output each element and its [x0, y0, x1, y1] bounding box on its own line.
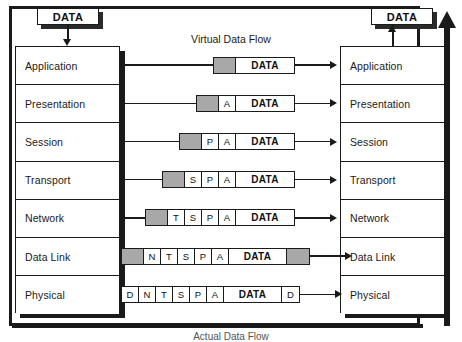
packet-cell-p: P	[202, 210, 219, 225]
packet-lead-line	[121, 103, 196, 105]
packet-row-transport: SPADATA	[121, 171, 337, 188]
layer-label: Network	[25, 212, 64, 224]
packet-cell-a: A	[219, 134, 236, 149]
packet-cell-data: DATA	[224, 287, 282, 302]
packet-cell-data: DATA	[236, 172, 294, 187]
packet-tail-line	[295, 103, 330, 105]
packet-cell-data: DATA	[236, 58, 294, 73]
packet-cell-n: N	[139, 287, 156, 302]
layer-label: Session	[350, 136, 388, 148]
packet-arrow-head-icon	[330, 61, 337, 69]
packet-cell-s: S	[185, 172, 202, 187]
destination-arrow-head-icon	[388, 25, 396, 32]
packet-tail-line	[295, 217, 330, 219]
layer-row-transport-left: Transport	[16, 162, 119, 200]
layer-label: Presentation	[25, 98, 85, 110]
packet-cell-shaded	[287, 249, 309, 264]
destination-data-capsule: DATA	[371, 8, 433, 25]
layer-label: Physical	[25, 289, 65, 301]
packet-lead-line	[121, 179, 162, 181]
packet-arrow-head-icon	[330, 214, 337, 222]
packet-cell-t: T	[168, 210, 185, 225]
layer-row-presentation-right: Presentation	[341, 85, 444, 123]
packet-cell-data: DATA	[236, 96, 294, 111]
packet-tail-line	[310, 255, 345, 257]
packet: DATA	[213, 57, 295, 74]
actual-data-flow-arrow-head-icon	[438, 11, 456, 28]
packet-row-presentation: ADATA	[121, 95, 337, 112]
packet-row-physical: DNTSPADATAD	[121, 286, 342, 303]
packet-cell-p: P	[202, 134, 219, 149]
packet-arrow-head-icon	[330, 99, 337, 107]
packet-cell-shaded	[163, 172, 185, 187]
packet-cell-a: A	[219, 172, 236, 187]
packet: DNTSPADATAD	[121, 286, 300, 303]
diagram-outer-frame-shadow	[12, 324, 423, 328]
packet-tail-line	[300, 294, 335, 296]
packet-cell-d: D	[122, 287, 139, 302]
packet-cell-p: P	[195, 249, 212, 264]
layer-row-data-link-left: Data Link	[16, 238, 119, 276]
packet-cell-a: A	[207, 287, 224, 302]
packet-row-data-link: NTSPADATA	[121, 248, 352, 265]
packet-cell-data: DATA	[229, 249, 287, 264]
layer-label: Data Link	[25, 251, 70, 263]
packet-tail-line	[295, 141, 330, 143]
layer-row-application-left: Application	[16, 47, 119, 85]
packet-arrow-head-icon	[330, 176, 337, 184]
packet: ADATA	[196, 95, 295, 112]
source-arrow-stem	[67, 25, 69, 40]
packet-row-session: PADATA	[121, 133, 337, 150]
packet-cell-data: DATA	[236, 134, 294, 149]
layer-row-network-right: Network	[341, 200, 444, 238]
layer-row-network-left: Network	[16, 200, 119, 238]
packet-cell-s: S	[173, 287, 190, 302]
layer-label: Application	[350, 60, 402, 72]
layer-row-data-link-right: Data Link	[341, 238, 444, 276]
packet-cell-shaded	[122, 249, 144, 264]
diagram-caption: Actual Data Flow	[0, 331, 462, 342]
receiver-protocol-stack: ApplicationPresentationSessionTransportN…	[340, 46, 445, 313]
layer-label: Network	[350, 212, 389, 224]
layer-label: Transport	[25, 174, 70, 186]
layer-row-session-right: Session	[341, 123, 444, 161]
packet-cell-t: T	[161, 249, 178, 264]
packet-lead-line	[121, 217, 145, 219]
packet-cell-s: S	[178, 249, 195, 264]
packet-cell-d: D	[282, 287, 299, 302]
packet-cell-n: N	[144, 249, 161, 264]
packet: PADATA	[179, 133, 295, 150]
layer-label: Session	[25, 136, 63, 148]
sender-protocol-stack: ApplicationPresentationSessionTransportN…	[15, 46, 120, 313]
packet-arrow-head-icon	[330, 138, 337, 146]
packet-lead-line	[121, 141, 179, 143]
packet-cell-shaded	[197, 96, 219, 111]
actual-data-flow-arrow-shaft	[444, 26, 450, 326]
layer-label: Application	[25, 60, 77, 72]
destination-data-capsule-label: DATA	[371, 8, 433, 25]
layer-label: Physical	[350, 289, 390, 301]
packet-lead-line	[121, 64, 213, 66]
layer-row-transport-right: Transport	[341, 162, 444, 200]
source-data-capsule-label: DATA	[37, 8, 99, 25]
layer-row-physical-left: Physical	[16, 276, 119, 314]
layer-row-session-left: Session	[16, 123, 119, 161]
packet-row-network: TSPADATA	[121, 209, 337, 226]
packet-cell-p: P	[202, 172, 219, 187]
packet-cell-a: A	[219, 210, 236, 225]
layer-row-application-right: Application	[341, 47, 444, 85]
layer-label: Presentation	[350, 98, 410, 110]
packet-cell-a: A	[219, 96, 236, 111]
packet-row-application: DATA	[121, 57, 337, 74]
source-arrow-head-icon	[63, 39, 71, 46]
source-data-capsule: DATA	[37, 8, 99, 25]
packet: SPADATA	[162, 171, 295, 188]
packet: NTSPADATA	[121, 248, 310, 265]
packet-cell-t: T	[156, 287, 173, 302]
layer-label: Transport	[350, 174, 395, 186]
packet: TSPADATA	[145, 209, 295, 226]
packet-cell-s: S	[185, 210, 202, 225]
packet-cell-a: A	[212, 249, 229, 264]
osi-encapsulation-diagram: Virtual Data Flow Actual Data Flow DATA …	[0, 0, 462, 342]
layer-label: Data Link	[350, 251, 395, 263]
